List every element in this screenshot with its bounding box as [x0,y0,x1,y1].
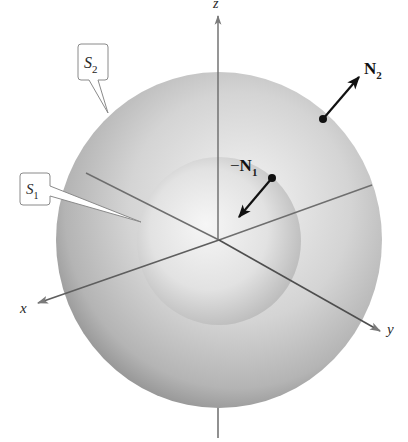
x-axis-label: x [19,300,27,316]
point-on-s2 [319,115,327,123]
s1-subscript: 1 [34,190,39,201]
concentric-spheres-diagram: x y z S2 S1 N2 −N1 [0,0,408,442]
neg-n1-sign: − [230,156,240,175]
n1-name: N [240,156,253,175]
point-on-s1 [268,174,276,182]
svg-text:N2: N2 [364,59,382,81]
callout-s2: S2 [78,44,108,113]
n1-subscript: 1 [252,166,258,178]
s2-subscript: 2 [92,63,98,75]
inner-sphere-s1 [137,157,301,325]
n2-subscript: 2 [376,69,382,81]
z-axis-label: z [212,0,219,11]
y-axis-label: y [385,321,394,337]
normal-vector-n2: N2 [319,59,382,123]
s2-name: S [84,54,92,71]
n2-name: N [364,59,377,78]
